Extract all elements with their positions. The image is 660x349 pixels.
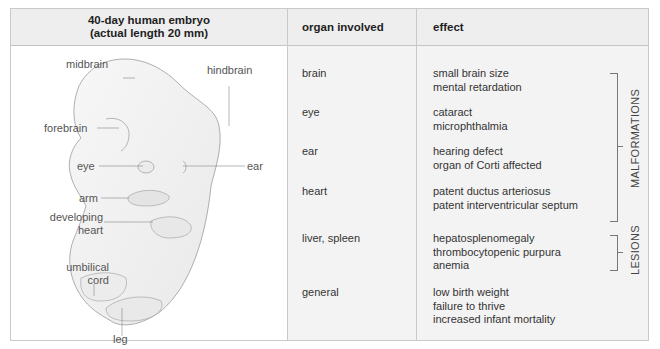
effect-line: hearing defect	[433, 145, 542, 159]
malformations-label: MALFORMATIONS	[629, 89, 641, 188]
organ-general: general	[302, 286, 339, 298]
organ-ear: ear	[302, 145, 318, 157]
label-developing-heart: developing heart	[43, 211, 103, 237]
malformations-bracket-tick	[617, 146, 623, 147]
label-developing-heart-line2: heart	[43, 224, 103, 237]
label-umbilical-cord-line1: umbilical	[59, 261, 109, 274]
effect-line: hepatosplenomegaly	[433, 232, 561, 246]
effect-line: increased infant mortality	[433, 313, 555, 327]
header-organ: organ involved	[302, 9, 384, 45]
effect-brain: small brain size mental retardation	[433, 67, 522, 94]
embryo-illustration	[11, 46, 287, 341]
header-effect: effect	[433, 9, 464, 45]
effect-eye: cataract microphthalmia	[433, 106, 508, 133]
effect-line: mental retardation	[433, 81, 522, 95]
label-leg: leg	[113, 333, 128, 346]
label-midbrain: midbrain	[66, 58, 108, 71]
effect-line: anemia	[433, 259, 561, 273]
lesions-bracket-tick	[617, 252, 623, 253]
effect-line: thrombocytopenic purpura	[433, 246, 561, 260]
effect-line: cataract	[433, 106, 508, 120]
effect-line: failure to thrive	[433, 300, 555, 314]
label-hindbrain: hindbrain	[207, 64, 252, 77]
organ-column: brain eye ear heart liver, spleen genera…	[288, 46, 416, 340]
lesions-bracket	[610, 235, 618, 271]
effect-line: patent interventricular septum	[433, 199, 578, 213]
label-forebrain: forebrain	[44, 122, 87, 135]
lesions-label: LESIONS	[629, 225, 641, 275]
label-arm: arm	[79, 192, 98, 205]
effect-line: organ of Corti affected	[433, 159, 542, 173]
effect-heart: patent ductus arteriosus patent interven…	[433, 185, 578, 212]
table-header: 40-day human embryo (actual length 20 mm…	[11, 9, 648, 46]
embryo-illustration-cell: midbrain hindbrain forebrain eye ear arm…	[11, 46, 287, 340]
label-umbilical-cord: umbilical cord	[59, 261, 109, 287]
organ-eye: eye	[302, 106, 320, 118]
effect-general: low birth weight failure to thrive incre…	[433, 286, 555, 327]
effect-line: low birth weight	[433, 286, 555, 300]
label-ear: ear	[247, 160, 263, 173]
header-embryo: 40-day human embryo (actual length 20 mm…	[11, 9, 287, 45]
organ-brain: brain	[302, 67, 326, 79]
label-eye: eye	[77, 160, 95, 173]
label-developing-heart-line1: developing	[43, 211, 103, 224]
header-embryo-subtitle: (actual length 20 mm)	[90, 27, 208, 40]
effect-column: small brain size mental retardation cata…	[417, 46, 648, 340]
organ-liver-spleen: liver, spleen	[302, 232, 360, 244]
effect-line: small brain size	[433, 67, 522, 81]
effect-liver-spleen: hepatosplenomegaly thrombocytopenic purp…	[433, 232, 561, 273]
effect-ear: hearing defect organ of Corti affected	[433, 145, 542, 172]
organ-heart: heart	[302, 185, 327, 197]
embryo-effects-table: 40-day human embryo (actual length 20 mm…	[10, 8, 649, 341]
header-embryo-title: 40-day human embryo	[88, 14, 210, 27]
effect-line: microphthalmia	[433, 120, 508, 134]
effect-line: patent ductus arteriosus	[433, 185, 578, 199]
malformations-bracket	[610, 73, 618, 222]
label-umbilical-cord-line2: cord	[59, 274, 109, 287]
